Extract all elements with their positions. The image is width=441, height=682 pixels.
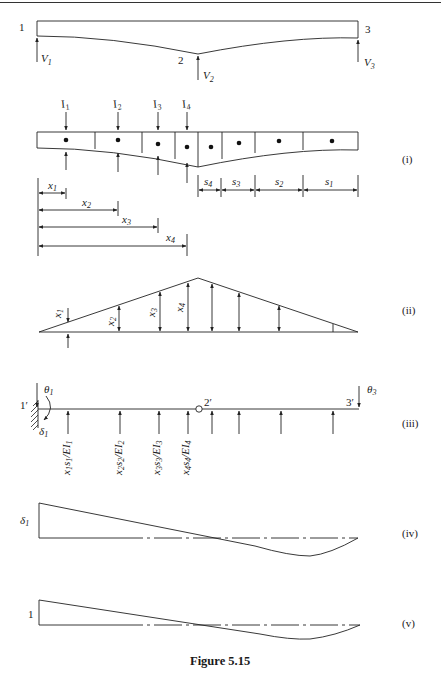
label-i2: I2 [110, 96, 122, 113]
panel-tag-i: (i) [402, 153, 413, 166]
ordinate-x1: x1 [51, 309, 65, 319]
ordinate-unit: 1 [28, 608, 34, 620]
node-label-3-prime: 3′ [346, 396, 354, 408]
panel-tag-ii: (ii) [402, 304, 416, 317]
node-label-3: 3 [365, 23, 371, 35]
segmented-beam [37, 112, 358, 183]
ordinate-x2: x2 [104, 317, 118, 327]
elastic-load-labels: x1s1/EI1 x2s2/EI2 x3s3/EI3 x4s4/EI4 [60, 440, 193, 476]
distance-dimensions [38, 178, 187, 256]
node-label-1-prime: 1′ [20, 399, 28, 411]
panel-tag-v: (v) [402, 617, 415, 630]
label-i1: I1 [58, 96, 70, 113]
deflection-delta1: δ1 [39, 425, 48, 439]
label-s4: s4 [204, 175, 212, 189]
ordinate-x4: x4 [173, 303, 187, 313]
node-label-2-prime: 2′ [204, 396, 212, 408]
ordinate-delta1: δ1 [20, 514, 29, 528]
node-label-2: 2 [178, 54, 184, 66]
figure-canvas: 1 2 3 V1 V2 V3 I1 I2 I3 I4 [0, 0, 441, 682]
reaction-v1: V1 [41, 52, 52, 67]
reaction-v3: V3 [364, 56, 375, 71]
conjugate-beam [31, 383, 359, 434]
elastic-load-4: x4s4/EI4 [179, 440, 193, 476]
node-label-1: 1 [19, 21, 25, 33]
panel-tag-iv: (iv) [402, 527, 418, 540]
deflection-diagram [39, 503, 358, 556]
panel-tag-iii: (iii) [402, 417, 419, 430]
rotation-theta1: θ1 [44, 383, 53, 397]
ordinate-x3: x3 [145, 308, 159, 318]
label-i3: I3 [150, 96, 162, 113]
label-s3: s3 [232, 175, 240, 189]
label-x3: x3 [121, 213, 131, 227]
label-s1: s1 [325, 175, 333, 189]
rotation-theta3: θ3 [367, 383, 376, 397]
label-i4: I4 [179, 96, 191, 113]
elastic-load-3: x3s3/EI3 [150, 440, 164, 476]
reaction-v2: V2 [203, 69, 214, 84]
moment-diagram [39, 278, 358, 348]
label-x2: x2 [81, 196, 91, 210]
label-x1: x1 [47, 179, 57, 193]
label-s2: s2 [275, 175, 283, 189]
elastic-load-1: x1s1/EI1 [60, 440, 74, 476]
label-x4: x4 [165, 231, 175, 245]
elastic-load-2: x2s2/EI2 [112, 440, 126, 476]
haunched-beam [37, 21, 358, 80]
influence-line [39, 600, 360, 639]
figure-caption: Figure 5.15 [190, 654, 250, 668]
